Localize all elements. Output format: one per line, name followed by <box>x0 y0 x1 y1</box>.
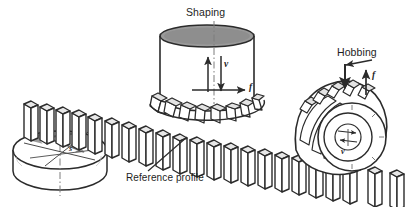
label-hobbing: Hobbing <box>337 47 377 58</box>
gear-cutting-diagram: Shaping Hobbing Reference profile v f f … <box>0 0 413 207</box>
shaper-cutter-cylinder-icon <box>160 25 254 111</box>
diagram-canvas <box>0 0 413 207</box>
label-f-shaping: f <box>249 83 252 93</box>
label-reference-profile: Reference profile <box>126 173 204 183</box>
label-shaping: Shaping <box>186 7 225 18</box>
label-v-shaping: v <box>224 60 228 70</box>
label-s-blank: s <box>69 145 72 153</box>
label-f-hobbing: f <box>372 71 375 81</box>
label-v-hobbing: v <box>341 148 345 156</box>
